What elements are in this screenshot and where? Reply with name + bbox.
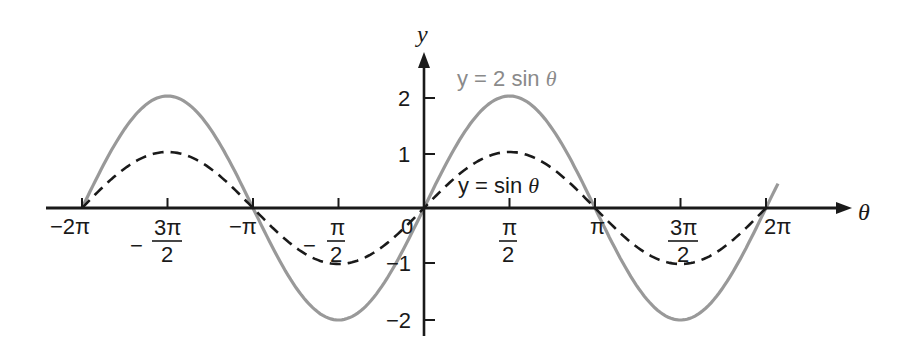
svg-text:2: 2 <box>330 242 342 267</box>
x-tick-label-pi: π <box>590 214 605 239</box>
svg-text:−: − <box>303 233 316 258</box>
y-tick-label-neg2: −2 <box>386 308 411 333</box>
x-tick-label-neg-pi-2: − π 2 <box>303 215 345 267</box>
y-tick-label-2: 2 <box>398 86 410 111</box>
y-axis-arrow-icon <box>418 52 430 68</box>
legend-label-sin-theta: y = sin θ <box>458 173 539 198</box>
x-tick-label-neg-pi: −π <box>229 214 257 239</box>
y-tick-label-1: 1 <box>398 142 410 167</box>
x-tick-label-neg-2pi: −2π <box>50 214 90 239</box>
legend-label-2-sin-theta: y = 2 sin θ <box>457 66 557 91</box>
svg-text:2: 2 <box>502 242 514 267</box>
x-tick-label-zero: 0 <box>401 214 413 239</box>
svg-text:2: 2 <box>677 242 689 267</box>
x-axis-label: θ <box>858 199 870 225</box>
y-tick-label-neg1: −1 <box>386 251 411 276</box>
x-tick-label-2pi: 2π <box>764 214 791 239</box>
x-tick-label-3pi-2: 3π 2 <box>668 215 698 267</box>
svg-text:3π: 3π <box>154 215 181 240</box>
svg-text:3π: 3π <box>670 215 697 240</box>
y-axis-label: y <box>415 21 428 47</box>
x-tick-label-pi-2: π 2 <box>499 215 517 267</box>
x-axis-arrow-icon <box>836 202 852 214</box>
sine-graph: y θ 2 1 −1 −2 −2π − 3π 2 −π − π 2 0 π 2 … <box>0 0 902 351</box>
svg-text:−: − <box>130 233 143 258</box>
y-axis <box>418 52 430 336</box>
svg-text:π: π <box>502 215 517 240</box>
svg-text:2: 2 <box>161 242 173 267</box>
x-tick-label-neg-3pi-2: − 3π 2 <box>130 215 182 267</box>
svg-text:π: π <box>330 215 345 240</box>
